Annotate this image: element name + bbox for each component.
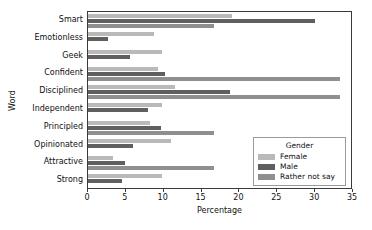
bar [88, 103, 162, 107]
y-tick-label: Geek [3, 51, 83, 60]
x-tick-label: 20 [233, 193, 243, 202]
x-tick-mark [314, 189, 315, 192]
x-tick-mark [276, 189, 277, 192]
bar [88, 90, 230, 94]
y-tick-label: Confident [3, 68, 83, 77]
bar [88, 166, 214, 170]
bar [88, 19, 315, 23]
bar [88, 50, 162, 54]
bar [88, 85, 175, 89]
bar [88, 144, 133, 148]
bar [88, 108, 148, 112]
y-tick-label: Disciplined [3, 86, 83, 95]
bar [88, 67, 158, 71]
bar [88, 72, 165, 76]
x-tick-label: 0 [84, 193, 89, 202]
bar [88, 37, 108, 41]
x-tick-mark [352, 189, 353, 192]
x-tick-mark [163, 189, 164, 192]
x-tick-label: 10 [158, 193, 168, 202]
legend: Gender FemaleMaleRather not say [253, 137, 346, 186]
bar-chart-figure: Word SmartEmotionlessGeekConfidentDiscip… [0, 0, 372, 230]
legend-label: Female [280, 152, 307, 161]
y-tick-label: Independent [3, 104, 83, 113]
x-axis-label: Percentage [87, 206, 352, 215]
y-tick-label: Opinionated [3, 140, 83, 149]
bar [88, 131, 214, 135]
x-tick-mark [238, 189, 239, 192]
legend-entries: FemaleMaleRather not say [258, 152, 341, 181]
x-tick-mark [125, 189, 126, 192]
bar [88, 95, 340, 99]
bar [88, 14, 232, 18]
y-tick-label: Attractive [3, 157, 83, 166]
bar [88, 55, 130, 59]
x-tick-label: 35 [347, 193, 357, 202]
y-tick-label: Smart [3, 15, 83, 24]
legend-entry: Rather not say [258, 172, 341, 181]
bar [88, 77, 340, 81]
bar [88, 24, 214, 28]
bar [88, 174, 162, 178]
bar [88, 121, 150, 125]
x-tick-label: 30 [309, 193, 319, 202]
legend-title: Gender [258, 141, 341, 150]
legend-swatch [258, 164, 275, 170]
x-tick-label: 15 [195, 193, 205, 202]
legend-swatch [258, 174, 275, 180]
x-tick-mark [87, 189, 88, 192]
legend-label: Rather not say [280, 172, 335, 181]
legend-entry: Female [258, 152, 341, 161]
bar [88, 161, 125, 165]
bar [88, 139, 171, 143]
bar [88, 32, 154, 36]
legend-entry: Male [258, 162, 341, 171]
y-tick-label: Strong [3, 175, 83, 184]
x-tick-label: 5 [122, 193, 127, 202]
y-tick-label: Principled [3, 122, 83, 131]
x-tick-label: 25 [271, 193, 281, 202]
bar [88, 156, 113, 160]
x-tick-mark [201, 189, 202, 192]
legend-swatch [258, 154, 275, 160]
y-tick-label: Emotionless [3, 33, 83, 42]
x-axis-ticks: 05101520253035 [87, 189, 352, 205]
bar [88, 126, 161, 130]
y-axis-tick-labels: SmartEmotionlessGeekConfidentDisciplined… [0, 11, 83, 189]
bar [88, 179, 122, 183]
legend-label: Male [280, 162, 298, 171]
